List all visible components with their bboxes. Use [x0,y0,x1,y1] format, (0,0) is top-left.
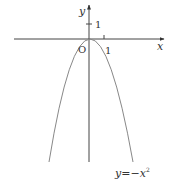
curve-label-equals-minus: =− [121,167,139,180]
x-axis-label: x [157,40,164,53]
curve-label-exponent: 2 [146,166,150,173]
origin-label: O [78,44,86,55]
curve-equation-label: y=−x2 [114,166,150,180]
parabola-graph: y 1 x O 1 y=−x2 [0,0,178,185]
x-tick-label: 1 [105,45,111,56]
parabola-curve [49,39,133,162]
y-axis-label: y [78,5,86,18]
y-tick-label: 1 [95,19,101,30]
